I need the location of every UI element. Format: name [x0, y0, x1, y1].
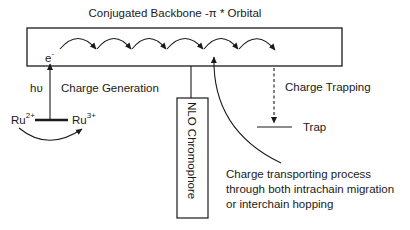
diagram-title: Conjugated Backbone -π * Orbital [89, 7, 262, 19]
transport-note-line-1: Charge transporting process [226, 168, 371, 180]
diagram-canvas: Conjugated Backbone -π * Orbital e- hυ C… [0, 0, 410, 230]
hop-arc-6 [239, 39, 275, 50]
hop-arc-4 [167, 39, 203, 50]
conjugated-backbone-box [27, 28, 342, 66]
ru2-label: Ru2+ [11, 111, 35, 126]
charge-generation-label: Charge Generation [61, 82, 159, 94]
transport-note-line-3: or interchain hopping [226, 198, 333, 210]
hopping-arcs [60, 39, 275, 51]
ru3-label: Ru3+ [72, 111, 96, 126]
oxidation-arrow [19, 128, 82, 140]
hop-arc-2 [97, 39, 131, 50]
hop-arc-1 [60, 39, 96, 50]
electron-label: e- [45, 49, 54, 64]
transport-note-line-2: through both intrachain migration [226, 183, 394, 195]
hop-arc-5 [204, 39, 238, 50]
hop-arc-3 [132, 39, 166, 50]
nlo-chromophore-label: NLO Chromophore [186, 102, 198, 199]
trap-label: Trap [303, 121, 326, 133]
transport-arrow [214, 57, 281, 163]
photon-label: hυ [30, 82, 43, 94]
charge-trapping-label: Charge Trapping [285, 81, 371, 93]
